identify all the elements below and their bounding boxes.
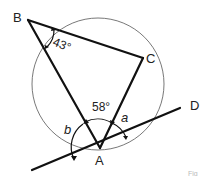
point-label-D: D xyxy=(190,98,199,113)
arrowhead-icon xyxy=(71,156,77,161)
angle-label-a: a xyxy=(121,110,128,125)
point-label-C: C xyxy=(146,51,155,66)
angle-label-b: b xyxy=(64,122,71,137)
circle-geometry-diagram: B C A D 43° 58° a b Fig xyxy=(0,0,203,176)
arrowhead-icon xyxy=(123,136,128,140)
angle-label-58: 58° xyxy=(92,100,110,114)
angle-label-43: 43° xyxy=(51,35,73,55)
point-label-A: A xyxy=(95,153,104,168)
tangent-line xyxy=(32,108,180,170)
point-label-B: B xyxy=(13,10,22,25)
angle-arc-A-58 xyxy=(85,119,112,123)
figure-mark: Fig xyxy=(188,170,198,176)
circumcircle xyxy=(32,18,164,150)
